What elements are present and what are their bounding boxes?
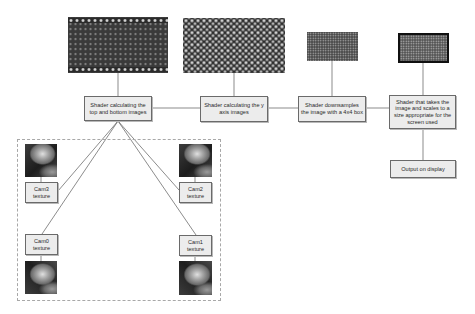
- output-display-label: Output on display: [401, 166, 445, 173]
- downsampled-result-image: [307, 32, 358, 61]
- shader-scale-box: Shader that takes the image and scales t…: [389, 95, 456, 129]
- shader-y-axis-label: Shader calculating the y axis images: [203, 102, 265, 115]
- cam0-texture-label: Cam0 texture: [28, 238, 55, 251]
- cam3-texture-label: Cam3 texture: [28, 186, 55, 199]
- cam0-texture-image: [25, 261, 57, 294]
- cam1-texture-label: Cam1 texture: [182, 239, 209, 252]
- top-bottom-result-image: [68, 17, 168, 73]
- bottom-band: [68, 67, 168, 72]
- shader-downsample-box: Shader downsamples the image with a 4x4 …: [298, 96, 366, 122]
- top-band: [68, 18, 168, 23]
- cam2-texture-label: Cam2 texture: [182, 186, 209, 199]
- output-display-box: Output on display: [390, 160, 456, 178]
- shader-y-axis-box: Shader calculating the y axis images: [200, 96, 268, 122]
- cam0-texture-box: Cam0 texture: [25, 234, 58, 255]
- y-axis-result-image: [183, 18, 285, 73]
- shader-top-bottom-box: Shader calculating the top and bottom im…: [84, 96, 152, 121]
- pipeline-diagram: Shader calculating the top and bottom im…: [0, 0, 475, 314]
- cam3-texture-box: Cam3 texture: [25, 182, 58, 203]
- shader-downsample-label: Shader downsamples the image with a 4x4 …: [301, 102, 363, 115]
- scaled-result-image: [398, 33, 449, 63]
- cam1-texture-box: Cam1 texture: [179, 235, 212, 256]
- cam2-texture-image: [179, 144, 212, 177]
- shader-scale-label: Shader that takes the image and scales t…: [392, 99, 453, 125]
- cam3-texture-image: [25, 144, 57, 177]
- cam2-texture-box: Cam2 texture: [179, 182, 212, 203]
- cam1-texture-image: [179, 261, 212, 295]
- shader-top-bottom-label: Shader calculating the top and bottom im…: [87, 102, 149, 115]
